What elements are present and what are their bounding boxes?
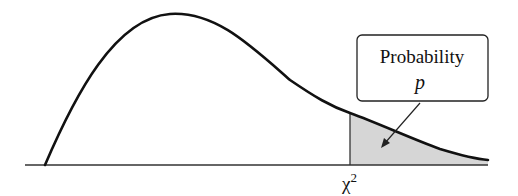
callout-label-probability: Probability — [380, 46, 465, 67]
chi-square-diagram: Probability p χ2 — [0, 0, 518, 196]
chi-square-label: χ2 — [341, 170, 357, 194]
callout-label-p: p — [413, 71, 425, 94]
